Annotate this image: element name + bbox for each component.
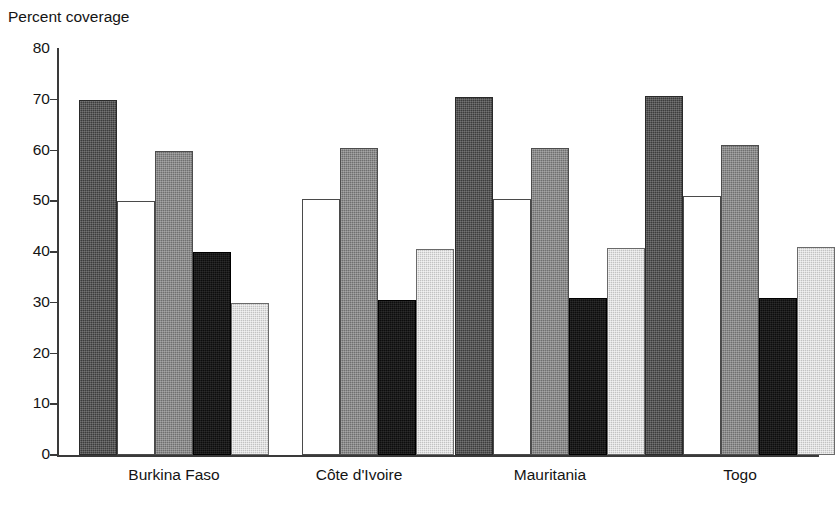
x-axis-category-label: Burkina Faso <box>79 466 269 484</box>
bar <box>569 298 607 455</box>
bar <box>645 96 683 455</box>
y-axis-tick-label: 50 <box>6 192 50 208</box>
y-axis-tick-mark <box>50 403 58 405</box>
y-axis-tick-mark <box>50 150 58 152</box>
y-axis-tick-labels: 01020304050607080 <box>0 0 50 506</box>
bar <box>683 196 721 455</box>
bar-group <box>79 49 269 455</box>
y-axis-tick-label: 0 <box>6 446 50 462</box>
y-axis-tick-label: 80 <box>6 40 50 56</box>
bar <box>416 249 454 455</box>
x-axis-line <box>57 455 819 457</box>
bar <box>759 298 797 455</box>
y-axis-tick-label: 60 <box>6 142 50 158</box>
y-axis-tick-mark <box>50 200 58 202</box>
bar <box>302 199 340 455</box>
plot-area <box>57 49 819 455</box>
bar <box>79 100 117 455</box>
y-axis-tick-mark <box>50 454 58 456</box>
bar-group <box>455 49 645 455</box>
x-axis-category-label: Côte d'Ivoire <box>264 466 454 484</box>
y-axis-tick-label: 40 <box>6 243 50 259</box>
bar-group <box>264 49 454 455</box>
bar <box>721 145 759 455</box>
bar <box>493 199 531 455</box>
y-axis-tick-mark <box>50 353 58 355</box>
y-axis-tick-label: 20 <box>6 345 50 361</box>
y-axis-tick-label: 10 <box>6 395 50 411</box>
bar <box>607 248 645 455</box>
bar <box>378 300 416 455</box>
bar-group <box>645 49 835 455</box>
y-axis-tick-mark <box>50 251 58 253</box>
bar <box>797 247 835 455</box>
bar <box>231 303 269 455</box>
bar <box>117 201 155 455</box>
y-axis-tick-mark <box>50 99 58 101</box>
y-axis-tick-mark <box>50 302 58 304</box>
bar <box>193 252 231 455</box>
x-axis-category-label: Togo <box>645 466 835 484</box>
bar <box>155 151 193 456</box>
bar <box>455 97 493 455</box>
y-axis-tick-label: 70 <box>6 91 50 107</box>
bar <box>340 148 378 455</box>
bar <box>531 148 569 455</box>
y-axis-tick-label: 30 <box>6 294 50 310</box>
x-axis-category-label: Mauritania <box>455 466 645 484</box>
